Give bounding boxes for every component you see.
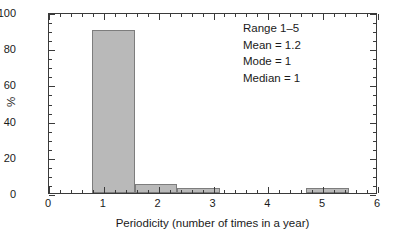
axis-tick	[126, 190, 127, 193]
y-tick-label: 0	[10, 188, 16, 200]
axis-tick	[137, 14, 138, 17]
axis-tick	[49, 187, 50, 193]
axis-tick	[334, 190, 335, 193]
axis-tick	[373, 32, 376, 33]
axis-tick	[378, 187, 379, 193]
axis-tick	[148, 190, 149, 193]
axis-tick	[49, 105, 52, 106]
axis-tick	[49, 77, 52, 78]
axis-tick	[137, 190, 138, 193]
annotation-median: Median = 1	[243, 70, 301, 87]
axis-tick	[104, 14, 105, 20]
axis-tick	[49, 150, 52, 151]
plot-area	[48, 13, 377, 194]
axis-tick	[224, 190, 225, 193]
axis-tick	[370, 195, 376, 196]
axis-tick	[373, 186, 376, 187]
y-tick-label: 20	[4, 152, 16, 164]
axis-tick	[49, 123, 55, 124]
summary-statistics-annotation: Range 1–5 Mean = 1.2 Mode = 1 Median = 1	[243, 20, 301, 86]
y-tick-label: 60	[4, 79, 16, 91]
x-tick-label: 3	[209, 197, 215, 210]
axis-tick	[345, 14, 346, 17]
axis-tick	[49, 14, 55, 15]
y-tick-label: 100	[0, 7, 16, 19]
axis-tick	[159, 14, 160, 20]
axis-tick	[115, 190, 116, 193]
y-tick-label: 80	[4, 43, 16, 55]
histogram-figure: 0123456020406080100 % Periodicity (numbe…	[0, 0, 399, 241]
axis-tick	[373, 105, 376, 106]
axis-tick	[82, 14, 83, 17]
axis-tick	[370, 123, 376, 124]
axis-tick	[257, 14, 258, 17]
axis-tick	[373, 150, 376, 151]
axis-tick	[49, 50, 55, 51]
axis-tick	[203, 190, 204, 193]
axis-tick	[373, 23, 376, 24]
axis-tick	[192, 14, 193, 17]
x-tick-label: 2	[155, 197, 161, 210]
axis-tick	[279, 14, 280, 17]
axis-tick	[49, 32, 52, 33]
axis-tick	[301, 14, 302, 17]
axis-tick	[246, 190, 247, 193]
axis-tick	[49, 95, 52, 96]
axis-tick	[49, 114, 52, 115]
axis-tick	[49, 168, 52, 169]
axis-tick	[356, 190, 357, 193]
axis-tick	[49, 159, 55, 160]
axis-tick	[373, 41, 376, 42]
x-tick-label: 5	[319, 197, 325, 210]
axis-tick	[60, 14, 61, 17]
axis-tick	[148, 14, 149, 17]
axis-tick	[49, 86, 55, 87]
axis-tick	[301, 190, 302, 193]
axis-tick	[370, 50, 376, 51]
axis-tick	[104, 187, 105, 193]
axis-tick	[373, 141, 376, 142]
axis-tick	[378, 14, 379, 20]
axis-tick	[49, 177, 52, 178]
axis-tick	[367, 190, 368, 193]
axis-tick	[71, 14, 72, 17]
x-tick-label: 6	[374, 197, 380, 210]
axis-tick	[373, 59, 376, 60]
axis-tick	[356, 14, 357, 17]
axis-tick	[370, 86, 376, 87]
annotation-mean: Mean = 1.2	[243, 37, 301, 54]
axis-tick	[49, 186, 52, 187]
axis-tick	[82, 190, 83, 193]
axis-tick	[257, 190, 258, 193]
histogram-bar	[135, 184, 178, 193]
x-tick-label: 4	[264, 197, 270, 210]
axis-tick	[93, 190, 94, 193]
bars-layer	[49, 14, 376, 193]
annotation-range: Range 1–5	[243, 20, 301, 37]
axis-tick	[214, 14, 215, 20]
axis-tick	[181, 14, 182, 17]
axis-tick	[224, 14, 225, 17]
axis-tick	[268, 187, 269, 193]
x-tick-label: 0	[45, 197, 51, 210]
axis-tick	[214, 187, 215, 193]
x-tick-label: 1	[100, 197, 106, 210]
axis-tick	[290, 14, 291, 17]
axis-tick	[49, 195, 55, 196]
axis-tick	[373, 177, 376, 178]
axis-tick	[126, 14, 127, 17]
axis-tick	[323, 14, 324, 20]
axis-tick	[49, 68, 52, 69]
axis-tick	[192, 190, 193, 193]
axis-tick	[235, 14, 236, 17]
histogram-bar	[92, 30, 135, 193]
axis-tick	[373, 114, 376, 115]
axis-tick	[115, 14, 116, 17]
axis-tick	[367, 14, 368, 17]
axis-tick	[373, 77, 376, 78]
annotation-mode: Mode = 1	[243, 53, 301, 70]
axis-tick	[159, 187, 160, 193]
axis-tick	[60, 190, 61, 193]
axis-tick	[246, 14, 247, 17]
axis-tick	[373, 68, 376, 69]
